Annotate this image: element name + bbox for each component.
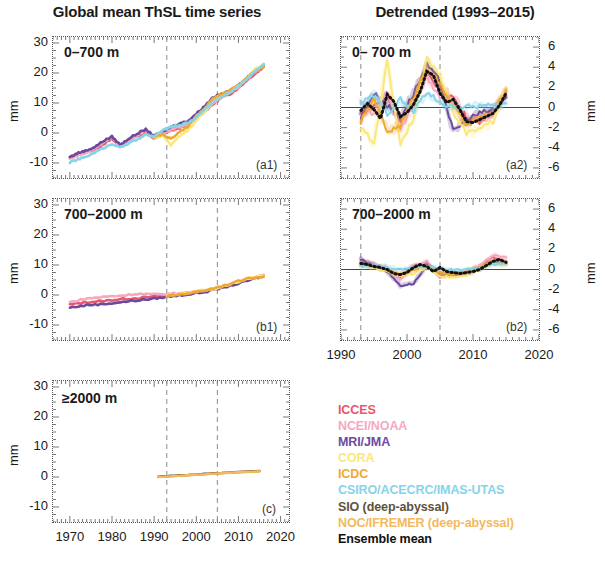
ytick-c-4: -10 (10, 498, 48, 513)
panel-b2-label: 700–2000 m (352, 206, 431, 222)
ytick-a2-1: 4 (548, 58, 578, 73)
ytick-a1-2: 10 (10, 94, 48, 109)
ytick-b2-6: -6 (548, 321, 578, 336)
ytick-b2-0: 6 (548, 200, 578, 215)
panel-b1-label: 700–2000 m (64, 206, 143, 222)
ytick-b2-3: 0 (548, 261, 578, 276)
panel-a1-tag: (a1) (256, 158, 277, 172)
legend-item-icdc: ICDC (338, 466, 588, 482)
ytick-b2-2: 2 (548, 240, 578, 255)
ytick-c-0: 30 (10, 378, 48, 393)
ytick-a2-6: -6 (548, 159, 578, 174)
legend-item-csiro-acecrc-imas-utas: CSIRO/ACECRC/IMAS-UTAS (338, 482, 588, 498)
panel-a2-tag: (a2) (506, 158, 527, 172)
xtick-left-0: 1970 (47, 529, 93, 544)
ytick-a1-4: -10 (10, 154, 48, 169)
figure-root: Global mean ThSL time series Detrended (… (0, 0, 605, 569)
legend-item-mri-jma: MRI/JMA (338, 434, 588, 450)
right-column-title: Detrended (1993–2015) (330, 3, 580, 20)
ytick-c-1: 20 (10, 408, 48, 423)
left-column-title: Global mean ThSL time series (12, 3, 302, 20)
panel-b1-tag: (b1) (256, 320, 277, 334)
xtick-left-5: 2020 (258, 529, 304, 544)
panel-a2-label: 0– 700 m (352, 44, 411, 60)
xtick-right-2: 2010 (450, 347, 496, 362)
ytick-a1-1: 20 (10, 64, 48, 79)
ytick-b2-1: 4 (548, 220, 578, 235)
xtick-right-0: 1990 (318, 347, 364, 362)
legend: ICCESNCEI/NOAAMRI/JMACORAICDCCSIRO/ACECR… (338, 402, 588, 547)
panel-c-tag: (c) (262, 502, 276, 516)
ytick-b1-4: -10 (10, 316, 48, 331)
yaxis-label-b2: mm (583, 262, 598, 284)
ytick-a1-0: 30 (10, 34, 48, 49)
legend-item-ncei-noaa: NCEI/NOAA (338, 418, 588, 434)
legend-item-cora: CORA (338, 450, 588, 466)
ytick-c-2: 10 (10, 438, 48, 453)
ytick-b1-3: 0 (10, 286, 48, 301)
ytick-b1-0: 30 (10, 196, 48, 211)
ytick-a2-5: -4 (548, 139, 578, 154)
panel-a1-label: 0–700 m (64, 44, 119, 60)
xtick-left-4: 2010 (215, 529, 261, 544)
ytick-b1-2: 10 (10, 256, 48, 271)
ytick-b1-1: 20 (10, 226, 48, 241)
legend-item-sio-deep-abyssal: SIO (deep-abyssal) (338, 499, 588, 515)
xtick-right-3: 2020 (516, 347, 562, 362)
legend-item-icces: ICCES (338, 402, 588, 418)
xtick-left-3: 2000 (173, 529, 219, 544)
legend-item-noc-ifremer-deep-abyssal: NOC/IFREMER (deep-abyssal) (338, 515, 588, 531)
legend-item-ensemble-mean: Ensemble mean (338, 531, 588, 547)
ytick-c-3: 0 (10, 468, 48, 483)
ytick-a2-0: 6 (548, 38, 578, 53)
ytick-a1-3: 0 (10, 124, 48, 139)
xtick-right-1: 2000 (384, 347, 430, 362)
ytick-a2-4: -2 (548, 119, 578, 134)
panel-b2-tag: (b2) (506, 320, 527, 334)
yaxis-label-a2: mm (583, 100, 598, 122)
ytick-b2-4: -2 (548, 281, 578, 296)
ytick-a2-2: 2 (548, 78, 578, 93)
ytick-a2-3: 0 (548, 99, 578, 114)
ytick-b2-5: -4 (548, 301, 578, 316)
xtick-left-2: 1990 (131, 529, 177, 544)
panel-c-label: ≥2000 m (62, 390, 117, 406)
xtick-left-1: 1980 (89, 529, 135, 544)
